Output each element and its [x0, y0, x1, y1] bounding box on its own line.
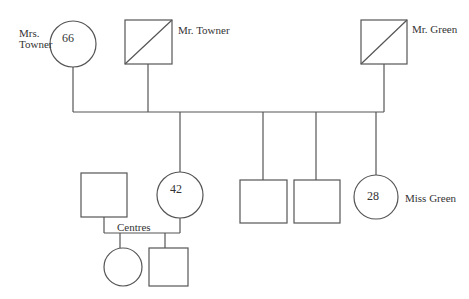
mr-towner-symbol — [125, 20, 172, 64]
grandchild-son-symbol — [149, 248, 188, 286]
centres-husband-symbol — [81, 173, 127, 217]
mr-towner-label: Mr. Towner — [178, 24, 230, 36]
miss-green-label: Miss Green — [405, 192, 456, 204]
centres-family-label: Centres — [117, 221, 151, 233]
miss-green-age: 28 — [367, 189, 379, 204]
mrs-centres-age: 42 — [170, 182, 182, 197]
son-2-symbol — [294, 180, 340, 223]
son-1-symbol — [240, 180, 287, 223]
mrs-towner-age: 66 — [62, 31, 74, 46]
mr-green-label: Mr. Green — [412, 23, 457, 35]
sibship-lines — [180, 112, 376, 180]
mr-green-symbol — [361, 20, 407, 64]
grandchild-daughter-symbol — [104, 248, 142, 286]
marriage-line — [73, 64, 384, 112]
mrs-towner-label-line2: Towner — [19, 38, 52, 50]
